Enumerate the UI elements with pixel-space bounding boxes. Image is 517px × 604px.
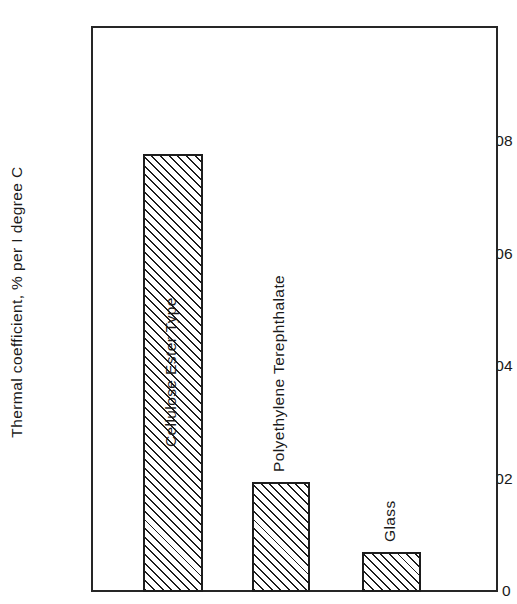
bar-label: Cellulose Ester Type xyxy=(162,297,180,447)
plot-area xyxy=(91,26,498,592)
y-axis-title: Thermal coefficient, % per I degree C xyxy=(0,0,34,604)
bar xyxy=(252,482,310,592)
bar-label: Polyethylene Terephthalate xyxy=(270,275,288,472)
bar-label: Glass xyxy=(381,500,399,542)
bar xyxy=(362,552,421,592)
chart-figure: Thermal coefficient, % per I degree C 0.… xyxy=(0,0,517,604)
